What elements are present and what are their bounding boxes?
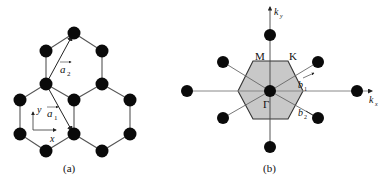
reciprocal-point — [351, 85, 363, 97]
panel-b-reciprocal-lattice: M K Γ k y k x b 1 b 2 (b) — [181, 6, 378, 175]
vector-b2-label: b 2 — [298, 107, 307, 120]
atom — [40, 145, 53, 158]
panel-a-caption: (a) — [63, 162, 76, 175]
atom — [96, 145, 109, 158]
reciprocal-point — [181, 85, 193, 97]
vector-a1-letter: a — [47, 107, 53, 119]
point-gamma-label: Γ — [263, 98, 269, 110]
kx-label: k x — [369, 94, 378, 107]
reciprocal-point — [264, 141, 276, 153]
vector-b1-arrow — [303, 73, 314, 78]
atom — [40, 78, 53, 91]
vector-b2-letter: b — [298, 107, 303, 118]
reciprocal-point — [312, 112, 324, 124]
lattice-atoms — [14, 27, 137, 158]
atom — [96, 45, 109, 58]
reciprocal-point — [312, 56, 324, 68]
atom — [14, 94, 27, 107]
reciprocal-point — [264, 29, 276, 41]
reciprocal-point — [217, 112, 229, 124]
atom — [68, 27, 81, 40]
figure: a 2 a 1 y x (a) — [0, 0, 387, 182]
gamma-point — [264, 85, 276, 97]
vector-a2-letter: a — [60, 63, 66, 75]
atom — [124, 128, 137, 141]
atom — [68, 128, 81, 141]
atom — [68, 94, 81, 107]
atom — [124, 94, 137, 107]
ky-letter: k — [274, 6, 279, 17]
vector-a2-label: a 2 — [60, 62, 71, 78]
atom — [40, 45, 53, 58]
kx-letter: k — [369, 94, 374, 105]
kx-subscript: x — [374, 101, 378, 107]
vector-a2-subscript: 2 — [67, 70, 71, 78]
vector-a1-label: a 1 — [47, 107, 58, 122]
vector-a1-subscript: 1 — [54, 114, 58, 122]
reciprocal-point — [217, 56, 229, 68]
point-K-label: K — [289, 50, 297, 62]
panel-a-honeycomb-lattice: a 2 a 1 y x (a) — [14, 27, 137, 176]
vector-b1-subscript: 1 — [304, 86, 307, 92]
y-axis-label: y — [36, 104, 42, 115]
atom — [14, 128, 27, 141]
atom — [96, 78, 109, 91]
vector-b2-subscript: 2 — [304, 114, 307, 120]
ky-label: k y — [274, 6, 283, 19]
panel-b-caption: (b) — [263, 162, 276, 175]
point-M-label: M — [255, 50, 265, 62]
real-space-axes: y x — [33, 104, 56, 144]
x-axis-label: x — [49, 133, 55, 144]
ky-subscript: y — [279, 13, 283, 19]
vector-b1-letter: b — [298, 79, 303, 90]
